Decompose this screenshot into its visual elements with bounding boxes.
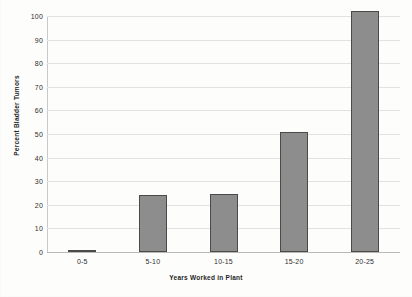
y-axis-tick-label: 100 [13, 13, 43, 20]
gridline [47, 110, 400, 111]
y-axis-tick-label: 10 [13, 225, 43, 232]
gridline [47, 63, 400, 64]
bar [280, 132, 308, 252]
x-axis-title: Years Worked in Plant [0, 274, 412, 281]
x-axis-baseline [47, 252, 400, 253]
y-axis-title: Percent Bladder Tumors [13, 51, 20, 181]
x-axis-tick-label: 20-25 [325, 258, 405, 265]
bar [139, 195, 167, 252]
gridline [47, 40, 400, 41]
x-axis-tick-label: 10-15 [184, 258, 264, 265]
bar [68, 250, 96, 252]
x-axis-tick-label: 5-10 [113, 258, 193, 265]
y-axis-tick-label: 90 [13, 36, 43, 43]
gridline [47, 134, 400, 135]
chart-screenshot: 0102030405060708090100 0-55-1010-1515-20… [0, 0, 412, 297]
gridline [47, 158, 400, 159]
y-axis-tick-label: 20 [13, 201, 43, 208]
bar [210, 194, 238, 252]
gridline [47, 16, 400, 17]
y-axis-tick-label: 0 [13, 249, 43, 256]
gridline [47, 87, 400, 88]
plot-area [47, 16, 400, 252]
x-axis-tick-label: 0-5 [42, 258, 122, 265]
x-axis-tick-label: 15-20 [254, 258, 334, 265]
bar [351, 11, 379, 252]
gridline [47, 181, 400, 182]
